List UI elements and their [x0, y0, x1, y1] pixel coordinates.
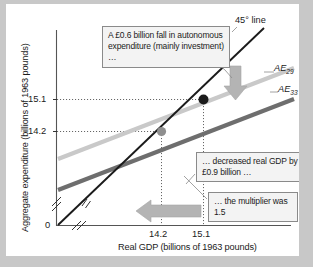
gdp-left-arrow: [136, 200, 202, 222]
callout-real-gdp-decrease: … decreased real GDP by £0.9 billion …: [196, 152, 299, 182]
y-tick-label-151: 15.1: [28, 93, 46, 104]
line45-label: 45° line: [235, 15, 266, 25]
ae29-label: AE29: [274, 63, 294, 75]
leader-line-45: [232, 27, 237, 32]
x-tick-label-151: 15.1: [192, 228, 210, 239]
x-tick-label-142: 14.2: [149, 228, 167, 239]
origin-label: 0: [45, 219, 50, 230]
x-axis-title: Real GDP (billions of 1963 pounds): [118, 242, 257, 252]
ae33-label: AE33: [278, 84, 298, 96]
callout-multiplier: … the multiplier was 1.5: [208, 192, 298, 222]
ae29-label-text: AE: [274, 63, 286, 73]
ae29-label-sub: 29: [286, 68, 293, 75]
ae33-label-text: AE: [278, 84, 290, 94]
y-axis-title: Aggregate expenditure (billions of 1963 …: [20, 43, 30, 232]
chart-page-area: Aggregate expenditure (billions of 1963 …: [6, 4, 299, 256]
figure-container: Aggregate expenditure (billions of 1963 …: [0, 0, 313, 267]
equilibrium-point-new: [157, 127, 166, 136]
ae33-label-sub: 33: [290, 89, 297, 96]
y-tick-label-142: 14.2: [28, 125, 46, 136]
callout-autonomous-expenditure: A £0.6 billion fall in autonomous expend…: [102, 26, 230, 68]
equilibrium-point-initial: [199, 95, 209, 105]
